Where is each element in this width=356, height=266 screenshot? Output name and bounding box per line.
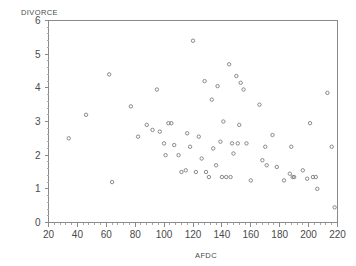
- data-point: [282, 179, 285, 182]
- plot-box-edge: [49, 21, 338, 223]
- data-point: [164, 153, 167, 156]
- y-axis-title: DIVORCE: [21, 8, 58, 17]
- data-point: [230, 142, 233, 145]
- data-point: [107, 73, 110, 76]
- x-axis-tick-labels: 20406080100120140160180200220: [43, 229, 346, 240]
- data-point: [188, 145, 191, 148]
- x-tick-label: 120: [185, 229, 202, 240]
- y-axis-tick-labels: 0123456: [35, 15, 41, 228]
- y-tick-label: 1: [35, 183, 41, 194]
- data-point: [212, 147, 215, 150]
- data-point: [136, 135, 139, 138]
- chart-canvas: 20406080100120140160180200220 0123456 DI…: [0, 0, 356, 266]
- data-point: [214, 164, 217, 167]
- data-point: [180, 170, 183, 173]
- data-point: [301, 169, 304, 172]
- y-axis-ticks: [45, 21, 49, 223]
- y-tick-label: 4: [35, 82, 41, 93]
- data-point: [275, 165, 278, 168]
- data-point: [316, 187, 319, 190]
- data-point: [67, 137, 70, 140]
- x-tick-label: 20: [43, 229, 55, 240]
- data-point: [200, 157, 203, 160]
- x-tick-label: 80: [130, 229, 142, 240]
- axes-frame: [49, 21, 338, 223]
- data-point: [330, 145, 333, 148]
- data-point: [162, 142, 165, 145]
- x-tick-label: 180: [271, 229, 288, 240]
- data-point: [222, 120, 225, 123]
- scatter-plot-figure: 20406080100120140160180200220 0123456 DI…: [0, 0, 356, 266]
- data-point: [290, 145, 293, 148]
- data-point: [264, 145, 267, 148]
- data-point: [84, 113, 87, 116]
- data-point: [235, 74, 238, 77]
- data-point: [236, 142, 239, 145]
- data-point: [203, 79, 206, 82]
- data-point: [249, 179, 252, 182]
- y-tick-label: 5: [35, 49, 41, 60]
- data-point: [229, 175, 232, 178]
- data-point: [158, 130, 161, 133]
- data-point: [173, 143, 176, 146]
- data-point: [207, 175, 210, 178]
- data-point: [242, 88, 245, 91]
- data-point: [220, 175, 223, 178]
- data-point: [186, 132, 189, 135]
- data-point: [333, 206, 336, 209]
- x-tick-label: 200: [300, 229, 317, 240]
- data-point: [129, 105, 132, 108]
- data-point: [191, 39, 194, 42]
- data-point: [225, 175, 228, 178]
- x-tick-label: 100: [156, 229, 173, 240]
- data-point: [204, 170, 207, 173]
- x-tick-label: 140: [214, 229, 231, 240]
- data-point: [145, 123, 148, 126]
- data-point: [110, 180, 113, 183]
- data-point: [227, 63, 230, 66]
- data-point: [326, 91, 329, 94]
- data-point: [219, 140, 222, 143]
- x-tick-label: 60: [101, 229, 113, 240]
- data-point: [155, 88, 158, 91]
- x-tick-label: 220: [329, 229, 346, 240]
- data-point: [308, 121, 311, 124]
- data-point: [232, 152, 235, 155]
- data-point-series: [67, 39, 336, 209]
- data-point: [238, 123, 241, 126]
- y-tick-label: 2: [35, 150, 41, 161]
- x-axis-title: AFDC: [195, 251, 217, 260]
- x-tick-label: 40: [72, 229, 84, 240]
- data-point: [184, 169, 187, 172]
- y-tick-label: 0: [35, 217, 41, 228]
- data-point: [305, 177, 308, 180]
- data-point: [271, 133, 274, 136]
- x-tick-label: 160: [242, 229, 259, 240]
- data-point: [288, 172, 291, 175]
- data-point: [239, 81, 242, 84]
- data-point: [194, 170, 197, 173]
- data-point: [177, 153, 180, 156]
- data-point: [265, 164, 268, 167]
- data-point: [216, 84, 219, 87]
- y-tick-label: 3: [35, 116, 41, 127]
- x-axis-ticks: [49, 223, 338, 227]
- data-point: [197, 135, 200, 138]
- data-point: [261, 159, 264, 162]
- data-point: [245, 142, 248, 145]
- data-point: [258, 103, 261, 106]
- data-point: [210, 98, 213, 101]
- axis-spines: [49, 21, 338, 223]
- data-point: [151, 128, 154, 131]
